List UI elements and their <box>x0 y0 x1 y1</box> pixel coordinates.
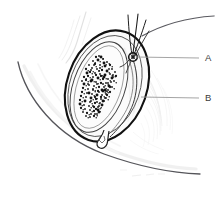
stipple-dot <box>102 83 104 85</box>
stipple-dot <box>98 86 100 88</box>
stipple-dot <box>84 89 86 91</box>
stipple-dot <box>89 116 91 118</box>
stipple-dot <box>109 86 111 88</box>
stipple-dot <box>99 61 101 63</box>
stipple-dot <box>83 83 86 86</box>
stipple-dot <box>99 64 101 66</box>
stipple-dot <box>90 113 92 115</box>
stipple-dot <box>105 78 107 80</box>
label-A-text: A <box>205 52 212 63</box>
stipple-dot <box>100 82 102 84</box>
stipple-dot <box>90 69 92 71</box>
stipple-dot <box>113 80 115 82</box>
stipple-dot <box>95 74 97 76</box>
stipple-dot <box>95 108 97 110</box>
stipple-dot <box>96 98 98 100</box>
stipple-dot <box>98 105 100 107</box>
stipple-dot <box>94 113 96 115</box>
stipple-dot <box>98 55 100 57</box>
stipple-dot <box>90 100 92 102</box>
stipple-dot <box>92 60 94 62</box>
stipple-dot <box>81 101 83 103</box>
stipple-dot <box>88 114 90 116</box>
label-B-text: B <box>205 92 212 103</box>
stipple-dot <box>108 96 110 98</box>
stipple-dot <box>83 76 85 78</box>
stipple-dot <box>87 81 89 83</box>
stipple-dot <box>115 75 117 77</box>
stipple-dot <box>105 64 107 66</box>
stipple-dot <box>98 91 100 93</box>
stipple-dot <box>109 64 111 66</box>
stipple-dot <box>101 94 103 96</box>
stipple-dot <box>100 107 102 109</box>
stipple-dot <box>84 100 87 103</box>
stipple-dot <box>92 88 94 90</box>
stipple-dot <box>107 99 109 101</box>
stipple-dot <box>97 59 100 62</box>
stipple-dot <box>91 73 93 75</box>
stipple-dot <box>96 101 98 103</box>
stipple-dot <box>92 76 94 78</box>
stipple-dot <box>85 85 87 87</box>
stipple-dot <box>111 86 113 88</box>
stipple-dot <box>91 103 93 105</box>
stipple-dot <box>85 68 87 70</box>
stipple-dot <box>95 87 97 89</box>
stipple-dot <box>90 107 92 109</box>
stipple-dot <box>114 71 116 73</box>
stipple-dot <box>115 82 117 84</box>
stipple-dot <box>82 111 84 113</box>
stipple-dot <box>110 81 112 83</box>
sweeping-curve-upper-right <box>142 16 214 36</box>
stipple-dot <box>83 104 85 106</box>
stipple-dot <box>92 71 94 73</box>
stipple-dot <box>94 72 96 74</box>
stipple-dot <box>93 64 95 66</box>
stipple-dot <box>86 72 89 75</box>
stipple-dot <box>96 68 98 70</box>
stipple-dot <box>93 81 95 83</box>
stipple-dot <box>82 97 84 99</box>
stipple-dot <box>111 77 114 80</box>
stipple-dot <box>105 90 107 92</box>
stipple-dot <box>105 97 107 99</box>
stipple-dot <box>87 83 89 85</box>
stipple-dot <box>88 64 90 66</box>
stipple-dot <box>103 62 106 65</box>
stipple-dot <box>88 92 91 95</box>
stipple-dot <box>99 79 101 81</box>
stipple-dot <box>90 97 93 100</box>
stipple-dot <box>99 67 101 69</box>
stipple-dot <box>95 81 97 83</box>
stipple-dot <box>93 110 95 112</box>
stipple-dot <box>83 93 85 95</box>
stipple-dot <box>84 108 86 110</box>
stipple-dot <box>88 105 90 107</box>
stipple-dot <box>94 96 96 98</box>
lower-texture-dashes <box>120 170 165 176</box>
stipple-dot <box>101 89 104 92</box>
stipple-dot <box>89 77 91 79</box>
stipple-dot <box>101 104 104 107</box>
stipple-dot <box>98 103 100 105</box>
stipple-dot <box>91 67 93 69</box>
stipple-dot <box>104 85 106 87</box>
stipple-dot <box>94 90 96 92</box>
stipple-dot <box>96 83 98 85</box>
stipple-dot <box>100 98 102 100</box>
stipple-dot <box>91 93 93 95</box>
stipple-dot <box>109 91 111 93</box>
stipple-dot <box>103 76 106 79</box>
stipple-dot <box>106 70 109 73</box>
stipple-dot <box>91 111 93 113</box>
illustration-canvas: A B <box>0 0 224 202</box>
stipple-dot <box>79 99 81 101</box>
stipple-dot <box>95 56 97 58</box>
stipple-dot <box>109 73 111 75</box>
stipple-dot <box>96 115 98 117</box>
stipple-dot <box>107 82 109 84</box>
stipple-dot <box>107 89 109 91</box>
stipple-dot <box>80 107 82 109</box>
stipple-dot <box>103 86 105 88</box>
